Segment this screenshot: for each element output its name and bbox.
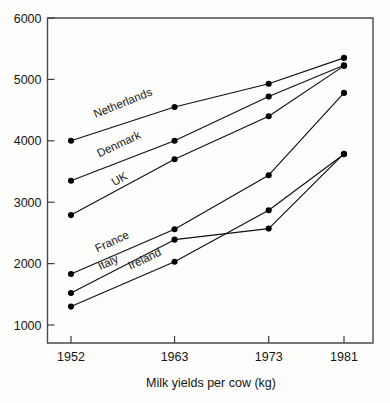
data-point-marker	[341, 63, 347, 69]
data-point-marker	[68, 178, 74, 184]
data-point-marker	[341, 55, 347, 61]
series-line	[71, 58, 344, 141]
chart-canvas: 100020003000400050006000 195219631973198…	[0, 0, 390, 403]
y-tick-label: 3000	[14, 196, 42, 210]
series-labels-group: NetherlandsDenmarkUKFranceItalyIreland	[92, 85, 163, 272]
data-point-marker	[266, 81, 272, 87]
plot-frame	[48, 18, 374, 343]
milk-yields-line-chart: 100020003000400050006000 195219631973198…	[0, 0, 390, 403]
data-point-marker	[68, 290, 74, 296]
data-point-marker	[68, 212, 74, 218]
x-axis-title: Milk yields per cow (kg)	[146, 376, 276, 390]
y-tick-label: 1000	[14, 319, 42, 333]
data-point-marker	[172, 138, 178, 144]
data-point-marker	[266, 94, 272, 100]
series-line	[71, 154, 344, 293]
data-point-marker	[341, 90, 347, 96]
data-point-marker	[172, 259, 178, 265]
data-point-marker	[172, 156, 178, 162]
y-tick-label: 4000	[14, 134, 42, 148]
data-point-marker	[68, 138, 74, 144]
series-label-ireland: Ireland	[126, 246, 163, 272]
y-tick-label: 2000	[14, 257, 42, 271]
x-tick-label: 1963	[161, 350, 189, 364]
data-point-marker	[68, 271, 74, 277]
x-tick-label: 1973	[255, 350, 283, 364]
data-point-marker	[341, 151, 347, 157]
x-axis-ticks: 1952196319731981	[57, 336, 358, 364]
data-point-marker	[68, 304, 74, 310]
y-axis-ticks: 100020003000400050006000	[14, 12, 55, 333]
x-tick-label: 1952	[57, 350, 85, 364]
data-point-marker	[172, 237, 178, 243]
data-series-group	[68, 55, 347, 310]
data-point-marker	[266, 207, 272, 213]
data-point-marker	[172, 104, 178, 110]
y-tick-label: 5000	[14, 73, 42, 87]
plot-border	[48, 18, 374, 343]
series-line	[71, 65, 344, 180]
x-tick-label: 1981	[330, 350, 358, 364]
data-point-marker	[172, 226, 178, 232]
y-tick-label: 6000	[14, 12, 42, 26]
data-point-marker	[266, 172, 272, 178]
data-point-marker	[266, 113, 272, 119]
data-point-marker	[266, 226, 272, 232]
series-label-netherlands: Netherlands	[92, 85, 154, 119]
series-label-denmark: Denmark	[95, 128, 143, 159]
